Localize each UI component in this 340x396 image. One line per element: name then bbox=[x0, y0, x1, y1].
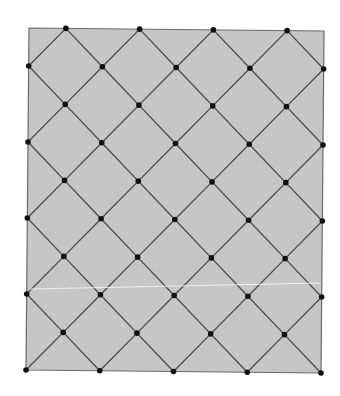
lattice-dot bbox=[62, 102, 68, 108]
lattice-dot bbox=[247, 65, 253, 71]
lattice-dot bbox=[98, 216, 104, 222]
lattice-dot bbox=[320, 142, 326, 148]
lattice-dot bbox=[137, 26, 143, 32]
lattice-dot bbox=[134, 330, 140, 336]
lattice-dot bbox=[25, 139, 31, 145]
lattice-dot bbox=[209, 255, 215, 261]
lattice-dot bbox=[208, 331, 214, 337]
lattice-dot bbox=[25, 215, 31, 221]
lattice-dot bbox=[97, 368, 103, 374]
lattice-dot bbox=[173, 141, 179, 147]
lattice-dot bbox=[284, 28, 290, 34]
lattice-dot bbox=[246, 141, 252, 147]
lattice-dot bbox=[210, 103, 216, 109]
lattice-dot bbox=[26, 63, 32, 69]
lattice-dot bbox=[246, 217, 252, 223]
lattice-dot bbox=[23, 367, 29, 373]
lattice-dot bbox=[98, 292, 104, 298]
lattice-dot bbox=[244, 369, 250, 375]
lattice-dot bbox=[100, 64, 106, 70]
lattice-dot bbox=[171, 293, 177, 299]
lattice-dot bbox=[282, 332, 288, 338]
lattice-dot bbox=[135, 178, 141, 184]
lattice-dot bbox=[320, 218, 326, 224]
lattice-dot bbox=[319, 294, 325, 300]
gray-rectangle bbox=[26, 28, 324, 373]
lattice-dot bbox=[211, 27, 217, 33]
lattice-dot bbox=[24, 291, 30, 297]
lattice-dot bbox=[284, 104, 290, 110]
lattice-dot bbox=[62, 178, 68, 184]
lattice-dot bbox=[282, 256, 288, 262]
lattice-dot bbox=[171, 369, 177, 375]
lattice-dot bbox=[173, 65, 179, 71]
lattice-dot bbox=[172, 217, 178, 223]
lattice-dot bbox=[135, 254, 141, 260]
lattice-dot bbox=[99, 140, 105, 146]
lattice-dot bbox=[60, 330, 66, 336]
lattice-dot bbox=[61, 254, 67, 260]
lattice-dot bbox=[318, 370, 324, 376]
lattice-dot bbox=[321, 66, 327, 72]
lattice-dot bbox=[136, 102, 142, 108]
diamond-lattice-diagram: Diamond lattice grid bbox=[0, 0, 340, 396]
lattice-dot bbox=[245, 293, 251, 299]
lattice-dot bbox=[63, 26, 69, 32]
lattice-dot bbox=[283, 180, 289, 186]
lattice-dot bbox=[209, 179, 215, 185]
